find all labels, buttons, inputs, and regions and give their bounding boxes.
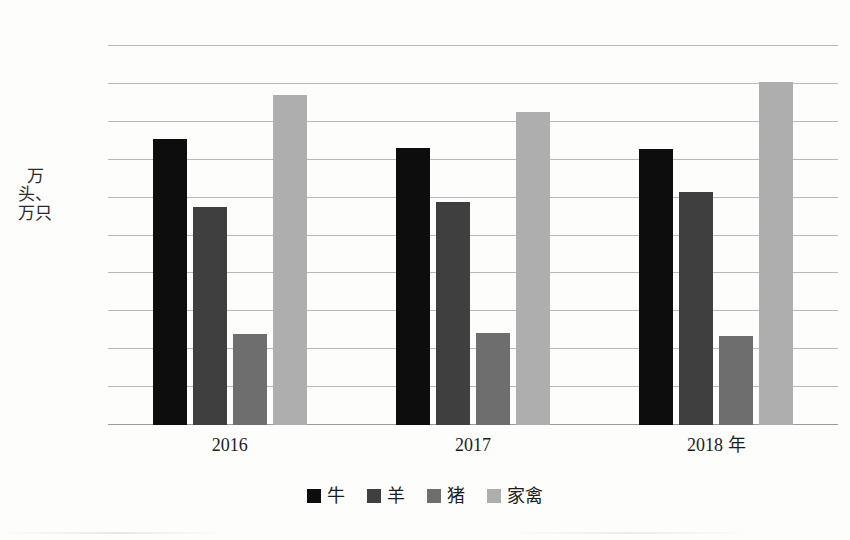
bar[interactable] bbox=[233, 334, 267, 425]
bar[interactable] bbox=[436, 202, 470, 425]
legend-item[interactable]: 猪 bbox=[427, 487, 465, 505]
bar-group bbox=[108, 46, 351, 425]
legend-swatch-icon bbox=[487, 489, 501, 503]
legend-swatch-icon bbox=[367, 489, 381, 503]
legend-item[interactable]: 羊 bbox=[367, 487, 405, 505]
x-tick-label: 2017 bbox=[455, 436, 491, 454]
bar[interactable] bbox=[153, 139, 187, 425]
legend-item[interactable]: 牛 bbox=[307, 487, 345, 505]
bar[interactable] bbox=[679, 192, 713, 425]
bar-group bbox=[351, 46, 594, 425]
plot-area bbox=[108, 46, 838, 425]
bar[interactable] bbox=[516, 112, 550, 425]
legend-label: 猪 bbox=[447, 487, 465, 505]
x-tick-label: 2016 bbox=[212, 436, 248, 454]
legend-swatch-icon bbox=[307, 489, 321, 503]
bar-chart-figure: 万头、万只 05101520253035404550 201620172018 … bbox=[0, 0, 850, 540]
legend-label: 牛 bbox=[327, 487, 345, 505]
bar[interactable] bbox=[759, 82, 793, 425]
bar[interactable] bbox=[396, 148, 430, 425]
scan-artifact bbox=[0, 532, 850, 534]
y-axis-title: 万头、万只 bbox=[18, 168, 52, 223]
bar[interactable] bbox=[193, 207, 227, 425]
bar[interactable] bbox=[639, 149, 673, 425]
bar[interactable] bbox=[719, 336, 753, 425]
legend-label: 羊 bbox=[387, 487, 405, 505]
legend-item[interactable]: 家禽 bbox=[487, 487, 543, 505]
legend-label: 家禽 bbox=[507, 487, 543, 505]
bar-group bbox=[595, 46, 838, 425]
x-tick-label: 2018 年 bbox=[687, 436, 746, 454]
legend-swatch-icon bbox=[427, 489, 441, 503]
chart-legend: 牛羊猪家禽 bbox=[0, 487, 850, 505]
bar[interactable] bbox=[476, 333, 510, 425]
bar[interactable] bbox=[273, 95, 307, 425]
